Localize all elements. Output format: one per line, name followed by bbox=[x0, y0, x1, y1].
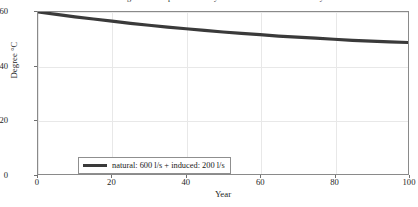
y-tick-label: 60 bbox=[0, 6, 8, 16]
x-tick-label: 20 bbox=[107, 177, 116, 187]
y-tick-mark bbox=[34, 66, 37, 67]
y-tick-mark bbox=[34, 11, 37, 12]
x-tick-label: 100 bbox=[403, 177, 416, 187]
chart-legend: natural: 600 l/s + induced: 200 l/s bbox=[78, 157, 231, 174]
legend-color-swatch bbox=[83, 164, 107, 167]
y-tick-label: 40 bbox=[0, 61, 8, 71]
y-tick-label: 0 bbox=[4, 170, 8, 180]
plot-area: natural: 600 l/s + induced: 200 l/s bbox=[37, 11, 409, 175]
x-tick-label: 80 bbox=[330, 177, 339, 187]
y-tick-label: 20 bbox=[0, 115, 8, 125]
data-series-layer bbox=[38, 12, 408, 174]
legend-label: natural: 600 l/s + induced: 200 l/s bbox=[112, 161, 225, 170]
x-tick-label: 60 bbox=[256, 177, 265, 187]
series-line-natural-induced bbox=[38, 12, 408, 43]
x-tick-label: 0 bbox=[35, 177, 39, 187]
chart-title: Prediction of gradual temperature decay … bbox=[0, 0, 418, 2]
y-tick-mark bbox=[34, 120, 37, 121]
y-axis-label: Degree °C bbox=[9, 10, 19, 110]
y-tick-mark bbox=[34, 175, 37, 176]
x-axis-label: Year bbox=[37, 189, 409, 199]
x-tick-label: 40 bbox=[182, 177, 191, 187]
chart-figure: Prediction of gradual temperature decay … bbox=[0, 0, 418, 207]
